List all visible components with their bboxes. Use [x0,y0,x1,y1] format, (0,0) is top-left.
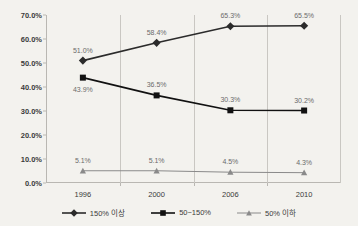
diamond-marker [79,57,87,65]
chart-container: 0.0%10.0%20.0%30.0%40.0%50.0%60.0%70.0% … [0,0,358,226]
legend-item[interactable]: 50% 이하 [237,207,296,218]
legend-label: 50~150% [179,208,211,217]
legend: 150% 이상50~150%50% 이하 [0,207,358,218]
legend-marker-icon [151,208,175,218]
legend-marker-icon [237,208,261,218]
diamond-marker [300,22,308,30]
data-point-label: 65.5% [294,11,314,18]
x-axis-tick-mark [267,183,268,186]
y-axis-tick-label: 20.0% [21,131,42,140]
data-point-label: 4.3% [296,158,312,165]
legend-label: 150% 이상 [90,207,125,218]
legend-marker-icon [62,208,86,218]
plot-area: 0.0%10.0%20.0%30.0%40.0%50.0%60.0%70.0% … [46,15,341,183]
x-axis-tick-label: 2006 [222,190,239,199]
data-point-label: 30.3% [220,96,240,103]
diamond-marker [153,39,161,47]
x-axis-tick-mark [194,183,195,186]
square-marker [160,210,166,216]
square-marker [154,92,160,98]
chart-title [0,0,358,2]
legend-label: 50% 이하 [265,207,296,218]
data-point-label: 58.4% [147,28,167,35]
y-axis-tick-label: 40.0% [21,83,42,92]
data-point-label: 5.1% [149,156,165,163]
y-axis-tick-label: 0.0% [25,179,42,188]
data-point-label: 4.5% [222,158,238,165]
legend-item[interactable]: 150% 이상 [62,207,125,218]
data-point-label: 51.0% [73,46,93,53]
legend-item[interactable]: 50~150% [151,208,211,218]
data-point-label: 30.2% [294,96,314,103]
data-point-label: 5.1% [75,156,91,163]
diamond-marker [226,22,234,30]
x-axis-tick-mark [120,183,121,186]
y-axis-tick-label: 60.0% [21,35,42,44]
series-line [83,26,304,61]
series-line [83,171,304,173]
y-axis-tick-label: 70.0% [21,11,42,20]
y-axis-tick-label: 30.0% [21,107,42,116]
square-marker [80,75,86,81]
x-axis-tick-label: 2000 [148,190,165,199]
y-axis-tick-label: 50.0% [21,59,42,68]
square-marker [301,108,307,114]
x-axis-tick-label: 1996 [75,190,92,199]
series-line [83,78,304,111]
data-point-label: 36.5% [147,81,167,88]
square-marker [227,107,233,113]
data-point-label: 65.3% [220,12,240,19]
x-axis-tick-label: 2010 [296,190,313,199]
diamond-marker [70,209,78,217]
data-point-label: 43.9% [73,85,93,92]
y-axis-tick-label: 10.0% [21,155,42,164]
